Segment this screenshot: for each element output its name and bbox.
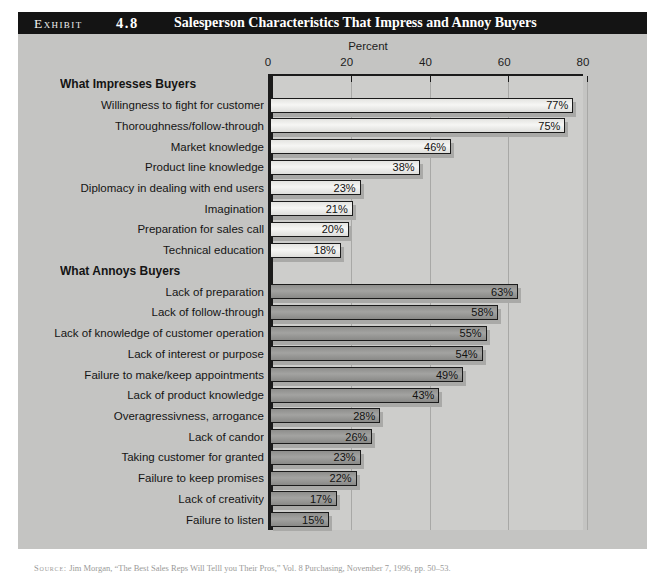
x-tick-label-20: 20 (327, 56, 367, 68)
group-header-label: What Annoys Buyers (60, 264, 264, 278)
bar: 15% (270, 512, 329, 527)
table-row: Willingness to fight for customer77% (0, 95, 661, 116)
bar-value-label: 26% (345, 430, 367, 443)
bar: 22% (270, 471, 357, 486)
bar-value-label: 28% (353, 409, 375, 422)
category-label: Willingness to fight for customer (30, 98, 264, 112)
bar-value-label: 46% (424, 140, 446, 153)
table-row: Product line knowledge38% (0, 157, 661, 178)
category-label: Lack of interest or purpose (30, 347, 264, 361)
bar-value-label: 22% (330, 472, 352, 485)
bar: 49% (270, 367, 463, 382)
table-row: Lack of interest or purpose54% (0, 343, 661, 364)
category-label: Lack of knowledge of customer operation (30, 326, 264, 340)
bar: 58% (270, 305, 498, 320)
bar: 26% (270, 429, 372, 444)
category-label: Market knowledge (30, 140, 264, 154)
bar: 63% (270, 284, 518, 299)
category-label: Imagination (30, 202, 264, 216)
bar-value-label: 23% (334, 181, 356, 194)
group-header-row: What Impresses Buyers (0, 74, 661, 95)
bar-value-label: 21% (326, 202, 348, 215)
bar: 38% (270, 160, 420, 175)
bar: 75% (270, 118, 565, 133)
table-row: Taking customer for granted23% (0, 447, 661, 468)
category-label: Failure to listen (30, 513, 264, 527)
bar: 23% (270, 180, 361, 195)
x-axis-tick-labels: 020406080 (0, 56, 661, 72)
page-title: Salesperson Characteristics That Impress… (174, 15, 537, 31)
table-row: Technical education18% (0, 240, 661, 261)
source-note: Source: Jim Morgan, “The Best Sales Reps… (34, 563, 654, 573)
bar: 54% (270, 346, 483, 361)
bar: 55% (270, 326, 487, 341)
category-label: Lack of follow-through (30, 305, 264, 319)
table-row: Failure to make/keep appointments49% (0, 364, 661, 385)
bar-value-label: 54% (456, 347, 478, 360)
bar-value-label: 20% (322, 223, 344, 236)
category-label: Taking customer for granted (30, 450, 264, 464)
bar: 77% (270, 98, 573, 113)
category-label: Overagressivness, arrogance (30, 409, 264, 423)
category-label: Technical education (30, 243, 264, 257)
table-row: Lack of preparation63% (0, 281, 661, 302)
table-row: Lack of product knowledge43% (0, 385, 661, 406)
category-label: Failure to keep promises (30, 471, 264, 485)
bar-value-label: 63% (491, 285, 513, 298)
bar-value-label: 38% (393, 161, 415, 174)
table-row: Diplomacy in dealing with end users23% (0, 178, 661, 199)
bar: 28% (270, 408, 380, 423)
x-tick-label-80: 80 (563, 56, 603, 68)
exhibit-kicker-label: Exhibit (34, 16, 83, 32)
bar: 21% (270, 201, 353, 216)
bar-value-label: 18% (314, 244, 336, 257)
bar: 23% (270, 450, 361, 465)
bar-value-label: 17% (310, 492, 332, 505)
table-row: Market knowledge46% (0, 136, 661, 157)
bar-value-label: 77% (546, 99, 568, 112)
table-row: Preparation for sales call20% (0, 219, 661, 240)
bar-value-label: 23% (334, 451, 356, 464)
bar: 43% (270, 388, 439, 403)
source-label: Source: (34, 563, 67, 573)
bar-rows: What Impresses BuyersWillingness to figh… (0, 74, 661, 530)
x-tick-label-60: 60 (484, 56, 524, 68)
x-tick-label-0: 0 (248, 56, 288, 68)
table-row: Failure to listen15% (0, 509, 661, 530)
table-row: Lack of follow-through58% (0, 302, 661, 323)
group-header-row: What Annoys Buyers (0, 261, 661, 282)
bar: 46% (270, 139, 451, 154)
table-row: Lack of knowledge of customer operation5… (0, 323, 661, 344)
category-label: Thoroughness/follow-through (30, 119, 264, 133)
table-row: Thoroughness/follow-through75% (0, 115, 661, 136)
bar-value-label: 58% (471, 306, 493, 319)
table-row: Failure to keep promises22% (0, 468, 661, 489)
bar-value-label: 55% (460, 327, 482, 340)
bar-value-label: 43% (412, 389, 434, 402)
category-label: Preparation for sales call (30, 222, 264, 236)
category-label: Lack of candor (30, 430, 264, 444)
category-label: Lack of preparation (30, 285, 264, 299)
bar: 20% (270, 222, 349, 237)
bar-value-label: 75% (538, 119, 560, 132)
exhibit-figure: Exhibit 4.8 Salesperson Characteristics … (0, 0, 661, 576)
table-row: Overagressivness, arrogance28% (0, 406, 661, 427)
category-label: Lack of product knowledge (30, 388, 264, 402)
table-row: Lack of candor26% (0, 426, 661, 447)
group-header-label: What Impresses Buyers (60, 77, 264, 91)
x-axis-title: Percent (0, 40, 661, 52)
table-row: Lack of creativity17% (0, 489, 661, 510)
bar-value-label: 49% (436, 368, 458, 381)
x-tick-label-40: 40 (406, 56, 446, 68)
category-label: Diplomacy in dealing with end users (30, 181, 264, 195)
category-label: Product line knowledge (30, 160, 264, 174)
category-label: Failure to make/keep appointments (30, 368, 264, 382)
bar: 18% (270, 243, 341, 258)
table-row: Imagination21% (0, 198, 661, 219)
category-label: Lack of creativity (30, 492, 264, 506)
bar-value-label: 15% (302, 513, 324, 526)
bar: 17% (270, 491, 337, 506)
exhibit-title-bar: Exhibit 4.8 Salesperson Characteristics … (18, 12, 647, 34)
exhibit-number-label: 4.8 (116, 15, 139, 32)
source-text: Jim Morgan, “The Best Sales Reps Will Te… (69, 563, 451, 573)
